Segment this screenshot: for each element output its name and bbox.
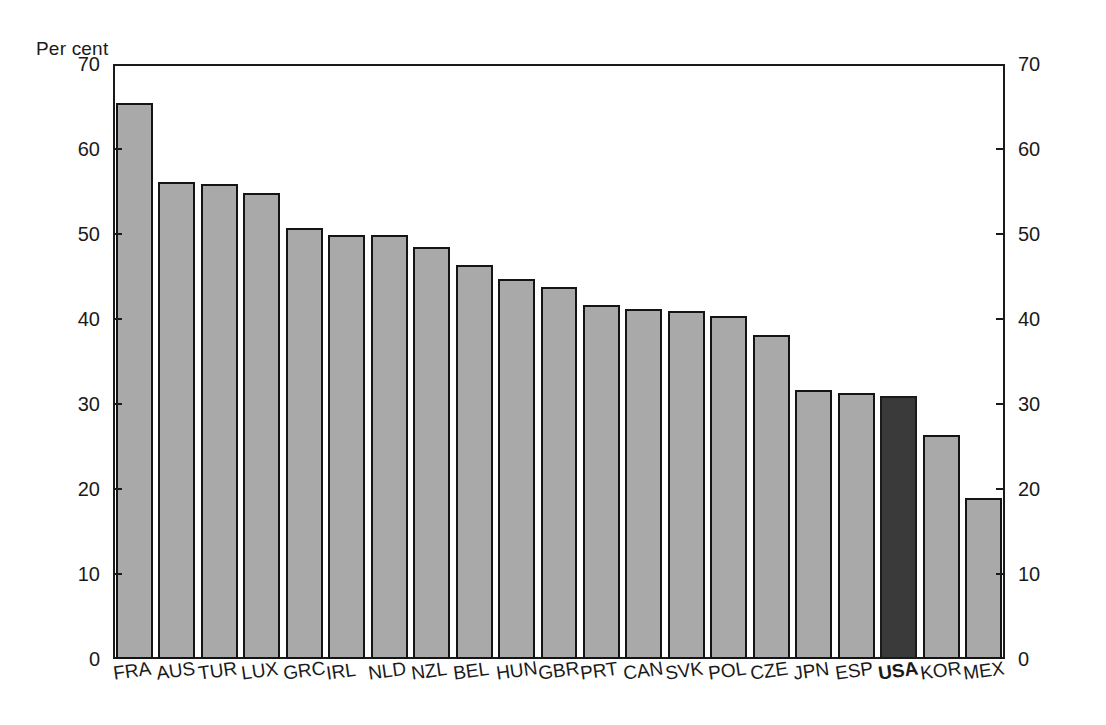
bar-usa [880, 396, 917, 660]
bars-layer [113, 64, 1005, 659]
x-category-label-pol: POL [707, 659, 747, 683]
y-axis-label-left-20: 20 [78, 479, 100, 499]
bar-gbr [541, 287, 578, 659]
x-category-label-hun: HUN [495, 658, 538, 683]
y-axis-label-left-60: 60 [78, 139, 100, 159]
bar-hun [498, 279, 535, 659]
y-tick-left-30 [113, 403, 122, 405]
bar-tur [201, 184, 238, 659]
x-category-label-jpn: JPN [792, 659, 830, 683]
bar-esp [838, 393, 875, 659]
bar-lux [243, 193, 280, 659]
x-category-label-usa: USA [877, 658, 919, 682]
bar-aus [158, 182, 195, 659]
bar-can [625, 309, 662, 659]
x-category-label-bel: BEL [452, 659, 490, 683]
bar-fra [116, 103, 153, 659]
y-axis-label-right-60: 60 [1018, 139, 1040, 159]
bar-jpn [795, 390, 832, 659]
x-category-label-tur: TUR [197, 659, 238, 683]
y-tick-left-60 [113, 148, 122, 150]
y-axis-label-right-10: 10 [1018, 564, 1040, 584]
y-axis-label-right-40: 40 [1018, 309, 1040, 329]
bar-nld [371, 235, 408, 659]
bar-grc [286, 228, 323, 659]
x-category-label-mex: MEX [962, 658, 1005, 683]
x-category-label-esp: ESP [834, 659, 874, 683]
x-category-label-cze: CZE [749, 659, 789, 683]
y-tick-right-30 [996, 403, 1005, 405]
x-category-label-aus: AUS [155, 659, 196, 683]
x-category-label-svk: SVK [664, 659, 704, 683]
y-tick-right-60 [996, 148, 1005, 150]
y-tick-right-20 [996, 488, 1005, 490]
y-tick-left-20 [113, 488, 122, 490]
bar-mex [965, 498, 1002, 659]
x-category-label-nzl: NZL [410, 659, 448, 683]
bar-cze [753, 335, 790, 659]
bar-chart-figure: Per cent 001010202030304040505060607070 … [0, 0, 1106, 725]
y-axis-label-left-10: 10 [78, 564, 100, 584]
x-category-label-gbr: GBR [537, 658, 580, 683]
x-category-label-grc: GRC [282, 658, 326, 683]
y-tick-right-50 [996, 233, 1005, 235]
bar-bel [456, 265, 493, 659]
bar-pol [710, 316, 747, 659]
x-category-label-kor: KOR [919, 658, 962, 683]
y-tick-left-10 [113, 573, 122, 575]
x-category-label-lux: LUX [240, 659, 279, 683]
bar-svk [668, 311, 705, 659]
bar-prt [583, 305, 620, 659]
x-category-label-irl: IRL [325, 660, 357, 683]
bar-nzl [413, 247, 450, 659]
x-category-label-nld: NLD [367, 659, 407, 683]
y-tick-right-40 [996, 318, 1005, 320]
y-axis-label-left-30: 30 [78, 394, 100, 414]
y-axis-label-right-0: 0 [1018, 649, 1029, 669]
y-axis-label-right-70: 70 [1018, 54, 1040, 74]
y-axis-label-right-20: 20 [1018, 479, 1040, 499]
bar-irl [328, 235, 365, 659]
y-axis-label-left-70: 70 [78, 54, 100, 74]
y-axis-label-right-30: 30 [1018, 394, 1040, 414]
x-category-label-fra: FRA [112, 659, 152, 683]
x-category-label-can: CAN [622, 658, 664, 682]
y-axis-label-left-50: 50 [78, 224, 100, 244]
y-tick-left-50 [113, 233, 122, 235]
x-category-label-prt: PRT [579, 659, 619, 683]
y-axis-label-left-40: 40 [78, 309, 100, 329]
y-axis-label-right-50: 50 [1018, 224, 1040, 244]
y-tick-right-10 [996, 573, 1005, 575]
bar-kor [923, 435, 960, 659]
y-tick-left-40 [113, 318, 122, 320]
y-axis-label-left-0: 0 [89, 649, 100, 669]
